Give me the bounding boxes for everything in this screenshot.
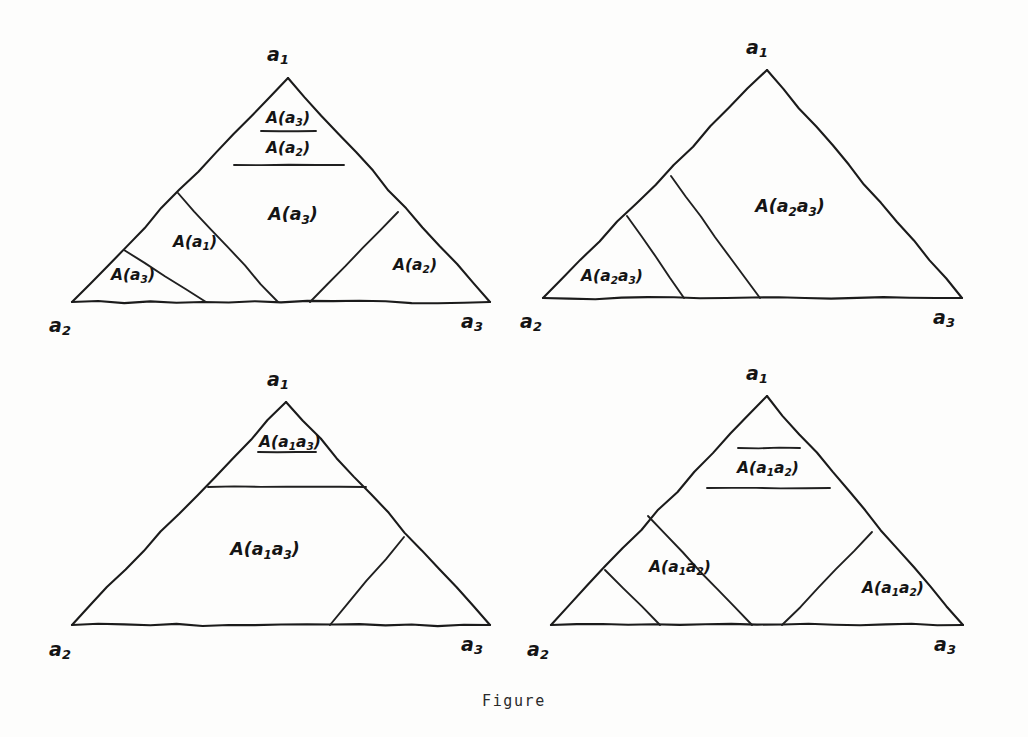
vertex-label-a3: a3 bbox=[933, 306, 955, 330]
triangle-edge-base bbox=[543, 297, 962, 299]
region-label-A-a3-corner: A(a3) bbox=[110, 266, 155, 286]
figure-canvas: A(a3)A(a2)A(a3)A(a1)A(a3)A(a2)a1a2a3A(a2… bbox=[0, 0, 1028, 737]
triangle-edge-base bbox=[72, 624, 490, 626]
triangle-edge-right bbox=[288, 78, 490, 302]
panel-top-right: A(a2a3)A(a2a3)a1a2a3 bbox=[520, 36, 962, 334]
region-label-A-a2-corner: A(a2) bbox=[392, 256, 437, 276]
vertex-label-a2: a2 bbox=[520, 310, 542, 334]
figure-root: A(a3)A(a2)A(a3)A(a1)A(a3)A(a2)a1a2a3A(a2… bbox=[0, 0, 1028, 737]
panel-bottom-left: A(a1a3)A(a1a3)a1a2a3 bbox=[49, 368, 490, 662]
vertex-label-a1: a1 bbox=[267, 368, 289, 392]
triangle-edge-base bbox=[551, 624, 963, 626]
vertex-label-a2: a2 bbox=[527, 638, 549, 662]
cut-right bbox=[782, 532, 872, 625]
vertex-label-a1: a1 bbox=[267, 43, 289, 67]
cut-left-inner bbox=[671, 176, 760, 298]
region-label-A-a2-band: A(a2) bbox=[265, 139, 310, 159]
cut-right bbox=[330, 537, 404, 625]
panel-top-left: A(a3)A(a2)A(a3)A(a1)A(a3)A(a2)a1a2a3 bbox=[49, 43, 490, 338]
region-label-A-a2a3-corner: A(a2a3) bbox=[580, 267, 643, 287]
region-label-A-a1a2-right: A(a1a2) bbox=[861, 579, 924, 599]
region-label-A-a3-center: A(a3) bbox=[266, 204, 318, 227]
vertex-label-a2: a2 bbox=[49, 638, 71, 662]
triangle-edge-left bbox=[543, 70, 767, 298]
cut-apex-lower bbox=[208, 486, 366, 487]
vertex-label-a2: a2 bbox=[49, 314, 71, 338]
triangle-edge-base bbox=[72, 301, 490, 303]
region-label-A-a1a3-main: A(a1a3) bbox=[228, 539, 300, 562]
region-label-A-a1a3-apex: A(a1a3) bbox=[258, 433, 321, 453]
cut-apex-lower bbox=[707, 488, 830, 489]
triangle-edge-left bbox=[551, 396, 767, 625]
region-label-A-a1a2-left: A(a1a2) bbox=[648, 558, 711, 578]
region-label-A-a2a3-main: A(a2a3) bbox=[753, 196, 825, 219]
region-label-A-a1a2-band: A(a1a2) bbox=[736, 459, 799, 479]
cut-left-outer bbox=[605, 570, 660, 625]
vertex-label-a3: a3 bbox=[461, 633, 483, 657]
figure-caption: Figure bbox=[0, 692, 1028, 710]
triangle-edge-left bbox=[72, 78, 288, 302]
vertex-label-a3: a3 bbox=[934, 633, 956, 657]
vertex-label-a1: a1 bbox=[746, 36, 768, 60]
triangle-edge-right bbox=[767, 70, 962, 298]
cut-apex-upper bbox=[738, 448, 800, 449]
region-label-A-a3-apex: A(a3) bbox=[265, 109, 310, 129]
triangle-edge-left bbox=[72, 402, 286, 625]
vertex-label-a1: a1 bbox=[746, 362, 768, 386]
region-label-A-a1-left: A(a1) bbox=[172, 233, 217, 253]
vertex-label-a3: a3 bbox=[461, 310, 483, 334]
panel-bottom-right: A(a1a2)A(a1a2)A(a1a2)a1a2a3 bbox=[527, 362, 963, 662]
cut-right bbox=[310, 212, 398, 302]
